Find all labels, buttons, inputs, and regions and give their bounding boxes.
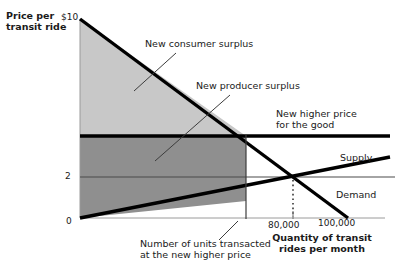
new-higher-price-annotation: New higher price for the good [276,108,357,130]
x-axis-title: Quantity of transit rides per month [262,232,382,254]
y-tick-label-0: 0 [66,216,72,227]
demand-curve-label: Demand [336,189,376,200]
supply-demand-figure: Price per transit ride Quantity of trans… [0,0,395,271]
x-tick-label-80000: 80,000 [268,220,300,231]
y-axis-title: Price per transit ride [6,10,66,32]
producer-surplus-annotation: New producer surplus [196,80,300,91]
consumer-surplus-annotation: New consumer surplus [145,38,253,49]
y-tick-label-10: $10 [61,12,78,23]
supply-curve-label: Supply [340,152,372,163]
y-tick-label-2: 2 [65,171,71,182]
quantity-transacted-annotation: Number of units transacted at the new hi… [140,238,271,260]
x-tick-label-100000: 100,000 [318,218,355,229]
